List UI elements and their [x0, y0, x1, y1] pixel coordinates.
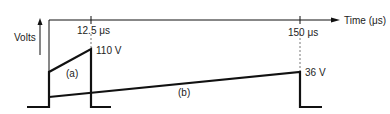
value-label-36v: 36 V: [305, 68, 326, 78]
time-axis: [49, 16, 340, 24]
marker-label-150us: 150 μs: [288, 28, 318, 38]
y-axis-label: Volts: [14, 33, 36, 43]
curve-label-b: (b): [178, 88, 190, 98]
volts-axis-arrow: [38, 18, 43, 55]
x-axis-label: Time (μs): [344, 16, 386, 26]
curve-label-a: (a): [66, 69, 78, 79]
value-label-110v: 110 V: [96, 46, 121, 56]
pulse-waveform-diagram: [0, 0, 390, 114]
marker-label-12-5us: 12.5 μs: [77, 26, 110, 36]
